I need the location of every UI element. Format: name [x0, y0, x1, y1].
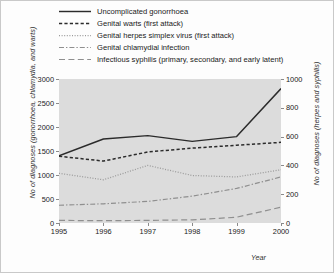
legend-item: Genital chlamydial infection — [59, 41, 283, 53]
y-tick-label-right: 1000 — [286, 75, 320, 84]
legend-label: Uncomplicated gonorrhoea — [97, 7, 188, 16]
y-tick-label-right: 400 — [286, 161, 320, 170]
series-lines — [59, 79, 281, 223]
y-tick-label-left: 1500 — [20, 147, 54, 156]
y-tick-label-right: 600 — [286, 132, 320, 141]
legend-label: Infectious syphilis (primary, secondary,… — [97, 55, 283, 64]
y-tick-mark-left — [56, 175, 59, 176]
x-tick-mark — [103, 223, 104, 226]
y-tick-label-right: 800 — [286, 103, 320, 112]
series-line — [59, 177, 281, 205]
legend-line-swatch — [59, 31, 91, 40]
y-tick-label-left: 500 — [20, 195, 54, 204]
y-tick-mark-left — [56, 103, 59, 104]
y-tick-mark-right — [281, 165, 284, 166]
x-tick-label: 1995 — [42, 227, 76, 236]
x-tick-label: 2000 — [264, 227, 298, 236]
series-line — [59, 89, 281, 156]
legend-label: Genital chlamydial infection — [97, 43, 189, 52]
legend-item: Genital warts (first attack) — [59, 17, 283, 29]
y-tick-label-left: 3000 — [20, 75, 54, 84]
y-tick-mark-right — [281, 194, 284, 195]
y-tick-mark-left — [56, 151, 59, 152]
y-axis-right-title: No of diagnoses (herpes and syphilis) — [312, 49, 321, 199]
x-tick-mark — [148, 223, 149, 226]
y-tick-label-left: 2000 — [20, 123, 54, 132]
series-line — [59, 142, 281, 161]
x-tick-label: 1998 — [175, 227, 209, 236]
legend-line-swatch — [59, 19, 91, 28]
y-tick-mark-left — [56, 127, 59, 128]
x-tick-mark — [281, 223, 282, 226]
legend-label: Genital warts (first attack) — [97, 19, 183, 28]
y-tick-mark-right — [281, 108, 284, 109]
x-tick-mark — [192, 223, 193, 226]
legend-line-swatch — [59, 43, 91, 52]
chart-legend: Uncomplicated gonorrhoeaGenital warts (f… — [59, 5, 283, 65]
chart-figure: No of diagnoses (gonorrhoea, chlamydia, … — [0, 0, 334, 273]
y-tick-label-left: 2500 — [20, 99, 54, 108]
legend-item: Genital herpes simplex virus (first atta… — [59, 29, 283, 41]
x-tick-label: 1996 — [86, 227, 120, 236]
legend-line-swatch — [59, 55, 91, 64]
legend-label: Genital herpes simplex virus (first atta… — [97, 31, 234, 40]
y-tick-mark-left — [56, 199, 59, 200]
y-tick-mark-left — [56, 79, 59, 80]
y-tick-mark-right — [281, 79, 284, 80]
plot-area — [59, 79, 281, 223]
y-tick-mark-right — [281, 137, 284, 138]
legend-item: Infectious syphilis (primary, secondary,… — [59, 53, 283, 65]
legend-line-swatch — [59, 7, 91, 16]
x-tick-label: 1997 — [131, 227, 165, 236]
series-line — [59, 207, 281, 221]
legend-item: Uncomplicated gonorrhoea — [59, 5, 283, 17]
y-tick-label-right: 200 — [286, 190, 320, 199]
y-tick-label-left: 1000 — [20, 171, 54, 180]
x-axis-title: Year — [251, 253, 266, 262]
x-tick-mark — [237, 223, 238, 226]
x-tick-label: 1999 — [220, 227, 254, 236]
x-tick-mark — [59, 223, 60, 226]
series-line — [59, 165, 281, 179]
